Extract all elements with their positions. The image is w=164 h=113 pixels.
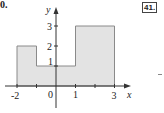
y-axis-label: y [45, 4, 51, 15]
y-tick-label-2: 2 [47, 41, 52, 52]
x-tick-label-1: 1 [73, 89, 78, 100]
x-tick-label-3: 3 [112, 90, 117, 101]
x-axis-label: x [126, 89, 132, 100]
x-tick-label-neg2: -2 [11, 90, 19, 101]
step-function-chart: -2 0 1 3 1 2 3 x y [0, 0, 164, 113]
x-axis-arrow-icon [124, 84, 131, 89]
y-tick-label-3: 3 [47, 21, 52, 32]
y-axis-arrow-icon [54, 7, 59, 14]
x-tick-label-0: 0 [48, 89, 53, 100]
shaded-area [17, 26, 115, 86]
y-tick-label-1: 1 [48, 56, 53, 67]
